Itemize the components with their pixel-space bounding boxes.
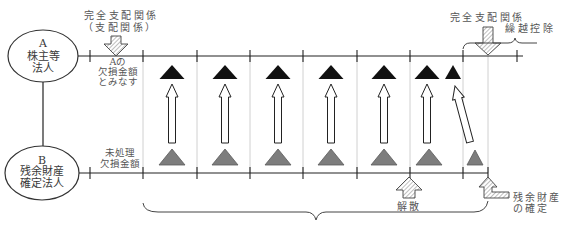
unprocessed-loss-triangles bbox=[159, 149, 483, 165]
deemed-loss-triangle-icon bbox=[319, 65, 344, 79]
timeline-a bbox=[78, 50, 523, 62]
residual-assets-fixed-label: 残余財産 の確定 bbox=[513, 191, 561, 214]
up-arrow-icon bbox=[421, 84, 433, 143]
full-control-label: 完全支配関係 bbox=[84, 9, 159, 21]
unprocessed-loss-triangle-icon bbox=[416, 149, 442, 165]
entity-a-line1: 株主等 bbox=[27, 49, 60, 63]
unprocessed-loss-triangle-icon bbox=[212, 149, 238, 165]
entity-a-label: A bbox=[38, 37, 48, 50]
residual-assets-line2: の確定 bbox=[513, 202, 549, 214]
carryforward-brace bbox=[463, 38, 537, 49]
dissolution-up-arrow-icon bbox=[396, 177, 422, 198]
transfer-arrows bbox=[166, 84, 476, 144]
entity-b-oval: B 残余財産 確定法人 bbox=[5, 146, 79, 200]
entity-b-line1: 残余財産 bbox=[20, 164, 64, 178]
up-arrow-icon bbox=[325, 84, 337, 143]
unprocessed-loss-triangle-icon bbox=[318, 149, 344, 165]
control-end-down-arrow-icon bbox=[475, 27, 501, 55]
up-arrow-icon bbox=[272, 84, 284, 143]
unprocessed-loss-triangle-icon bbox=[159, 149, 185, 165]
loss-carryforward-diagram: A 株主等 法人 B 残余財産 確定法人 bbox=[0, 0, 567, 225]
up-arrow-icon bbox=[378, 84, 390, 143]
up-arrow-icon bbox=[219, 84, 231, 143]
full-control-end-label: 完全支配関係 bbox=[450, 11, 525, 23]
up-arrow-icon bbox=[166, 84, 178, 143]
carryforward-deduction-label: 繰越控除 bbox=[505, 22, 555, 34]
diagonal-up-arrow-icon bbox=[449, 84, 476, 143]
unprocessed-loss-line1: 未処理 bbox=[105, 147, 135, 158]
deemed-loss-triangle-icon bbox=[372, 65, 397, 79]
entity-a-line2: 法人 bbox=[32, 61, 54, 75]
unprocessed-loss-label: 未処理 欠損金額 bbox=[100, 147, 140, 169]
deemed-loss-triangles bbox=[160, 65, 462, 79]
timeline-b bbox=[79, 167, 488, 179]
dissolution-label: 解散 bbox=[397, 200, 421, 212]
residual-assets-line1: 残余財産 bbox=[513, 191, 561, 203]
control-relation-label: （支配関係） bbox=[83, 22, 158, 33]
deemed-loss-triangle-icon bbox=[415, 65, 440, 79]
deemed-loss-triangle-icon bbox=[213, 65, 238, 79]
unprocessed-loss-line2: 欠損金額 bbox=[100, 158, 140, 169]
entity-a-oval: A 株主等 法人 bbox=[8, 30, 78, 82]
deemed-loss-triangle-icon bbox=[445, 65, 461, 79]
unprocessed-loss-triangle-icon bbox=[371, 149, 397, 165]
deemed-loss-triangle-icon bbox=[160, 65, 185, 79]
deemed-loss-triangle-icon bbox=[266, 65, 291, 79]
residual-assets-fixed-arrow-icon bbox=[479, 177, 509, 198]
deemed-loss-label: Aの 欠損金額 とみなす bbox=[98, 56, 138, 87]
deemed-loss-line3: とみなす bbox=[98, 76, 138, 87]
top-left-event-label: 完全支配関係 （支配関係） bbox=[83, 9, 159, 33]
unprocessed-loss-triangle-icon bbox=[265, 149, 291, 165]
entity-b-line2: 確定法人 bbox=[20, 176, 64, 190]
control-start-down-arrow-icon bbox=[104, 36, 128, 56]
period-brace bbox=[143, 201, 488, 220]
unprocessed-loss-triangle-icon bbox=[467, 150, 483, 165]
period-gridlines bbox=[143, 56, 488, 173]
top-right-event-label: 完全支配関係 繰越控除 bbox=[450, 11, 556, 49]
